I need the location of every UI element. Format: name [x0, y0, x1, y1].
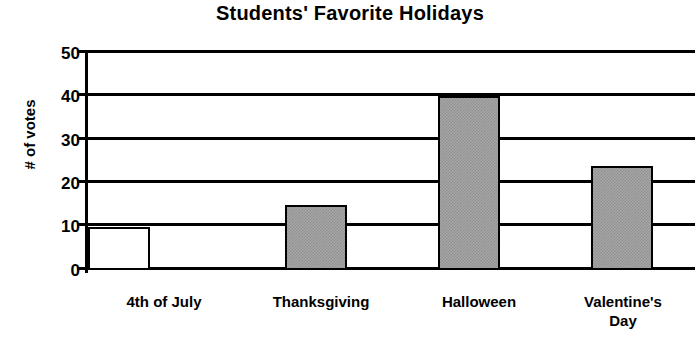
plot-area [88, 53, 695, 270]
x-label-thanksgiving: Thanksgiving [236, 292, 406, 311]
y-tick-label-50: 50 [34, 45, 80, 62]
gridline-40 [88, 93, 695, 96]
tick-mark-20 [77, 180, 85, 183]
x-axis-category-labels: 4th of July Thanksgiving Halloween Valen… [88, 292, 695, 350]
y-tick-label-30: 30 [34, 132, 80, 149]
bar-4th-of-july[interactable] [88, 227, 150, 270]
bar-halloween[interactable] [438, 96, 500, 270]
bar-chart: Students' Favorite Holidays # of votes 5… [0, 0, 700, 350]
y-tick-label-40: 40 [34, 88, 80, 105]
tick-mark-40 [77, 93, 85, 96]
bar-thanksgiving[interactable] [285, 205, 347, 270]
tick-mark-50 [77, 50, 85, 53]
tick-mark-30 [77, 137, 85, 140]
y-tick-label-20: 20 [34, 175, 80, 192]
gridline-30 [88, 137, 695, 140]
y-tick-label-0: 0 [34, 262, 80, 279]
x-label-4th-of-july: 4th of July [84, 292, 244, 311]
y-tick-label-10: 10 [34, 218, 80, 235]
x-label-valentines-day: Valentine'sDay [548, 292, 698, 330]
x-label-halloween: Halloween [404, 292, 554, 311]
tick-mark-0 [77, 267, 85, 270]
x-label-valentines-line1: Valentine's [584, 293, 662, 310]
y-axis-tick-labels: 50 40 30 20 10 0 [28, 0, 80, 350]
gridline-50 [88, 50, 695, 53]
chart-title: Students' Favorite Holidays [0, 2, 700, 25]
bar-valentines-day[interactable] [591, 166, 653, 270]
tick-mark-10 [77, 223, 85, 226]
x-label-valentines-line2: Day [609, 312, 637, 329]
